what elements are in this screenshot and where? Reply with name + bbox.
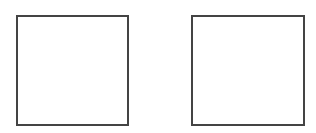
left-square — [16, 15, 129, 126]
right-square — [191, 15, 305, 126]
